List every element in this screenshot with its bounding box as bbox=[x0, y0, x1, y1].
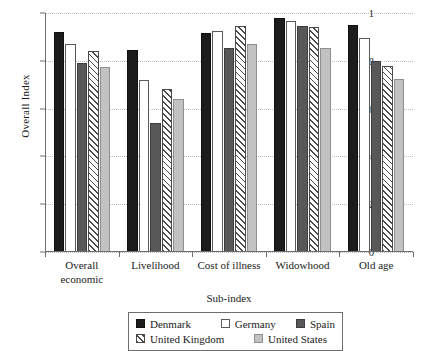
bar-group bbox=[339, 13, 413, 252]
bar-united-states bbox=[247, 44, 258, 252]
plot-inner bbox=[45, 13, 413, 252]
bar-spain bbox=[371, 61, 382, 252]
bar-germany bbox=[359, 38, 370, 252]
legend-label: United States bbox=[268, 333, 327, 345]
legend-label: Denmark bbox=[150, 318, 191, 330]
legend-item-united-states[interactable]: United States bbox=[254, 333, 327, 345]
legend-swatch-icon-spain bbox=[296, 319, 305, 328]
bar-united-states bbox=[394, 79, 405, 252]
legend-item-denmark[interactable]: Denmark bbox=[136, 318, 221, 330]
bar-united-states bbox=[173, 99, 184, 252]
bar-spain bbox=[297, 26, 308, 252]
legend-item-united-kingdom[interactable]: United Kingdom bbox=[136, 333, 254, 345]
x-axis-tick-mark bbox=[119, 252, 120, 257]
x-axis-category-label-line: Old age bbox=[331, 258, 421, 272]
legend-swatch-icon-united-kingdom bbox=[136, 334, 145, 343]
bar-germany bbox=[65, 44, 76, 252]
bar-denmark bbox=[274, 18, 285, 252]
x-axis-tick-mark bbox=[45, 252, 46, 257]
bar-denmark bbox=[348, 25, 359, 252]
x-axis-tick-mark bbox=[192, 252, 193, 257]
bar-group bbox=[266, 13, 340, 252]
bar-group bbox=[192, 13, 266, 252]
legend-label: Spain bbox=[310, 318, 335, 330]
bar-united-kingdom bbox=[88, 51, 99, 252]
x-axis-category-label-line: economic bbox=[37, 272, 127, 286]
y-axis-title: Overall Index bbox=[19, 36, 31, 176]
legend-swatch-icon-united-states bbox=[254, 334, 263, 343]
bar-group bbox=[119, 13, 193, 252]
legend-row: DenmarkGermanySpain bbox=[136, 316, 335, 331]
bar-spain bbox=[77, 63, 88, 252]
legend-swatch-icon-germany bbox=[221, 319, 230, 328]
bar-denmark bbox=[127, 50, 138, 252]
bar-denmark bbox=[201, 33, 212, 252]
legend-row: United KingdomUnited States bbox=[136, 331, 335, 346]
x-axis-category-labels: OveralleconomicLivelihoodCost of illness… bbox=[45, 258, 413, 292]
bar-united-states bbox=[320, 48, 331, 252]
bar-germany bbox=[139, 80, 150, 252]
bar-united-states bbox=[100, 67, 111, 252]
legend-item-germany[interactable]: Germany bbox=[221, 318, 296, 330]
plot-area bbox=[45, 13, 413, 252]
bar-united-kingdom bbox=[309, 27, 320, 252]
bar-group bbox=[45, 13, 119, 252]
bar-denmark bbox=[54, 32, 65, 252]
legend-item-spain[interactable]: Spain bbox=[296, 318, 335, 330]
bar-united-kingdom bbox=[382, 66, 393, 252]
bar-spain bbox=[150, 123, 161, 252]
x-axis-tick-mark bbox=[339, 252, 340, 257]
bar-united-kingdom bbox=[235, 26, 246, 252]
legend-label: Germany bbox=[235, 318, 276, 330]
legend-label: United Kingdom bbox=[150, 333, 224, 345]
x-axis-tick-mark bbox=[266, 252, 267, 257]
x-axis-category-label: Old age bbox=[331, 258, 421, 272]
y-axis-line bbox=[45, 13, 46, 252]
bar-germany bbox=[212, 31, 223, 252]
legend-swatch-icon-denmark bbox=[136, 319, 145, 328]
bar-united-kingdom bbox=[162, 89, 173, 252]
bar-spain bbox=[224, 48, 235, 252]
x-axis-tick-mark bbox=[413, 252, 414, 257]
legend: DenmarkGermanySpain United KingdomUnited… bbox=[128, 312, 343, 351]
bar-germany bbox=[286, 21, 297, 252]
x-axis-title: Sub-index bbox=[45, 292, 413, 304]
